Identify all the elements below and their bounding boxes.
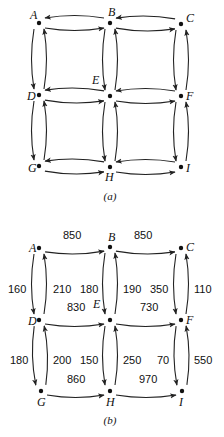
edge-a-to-d [32,254,35,314]
node-label: D [27,314,37,328]
node-e [108,318,112,322]
node-a [37,21,41,25]
node-label: B [108,230,116,244]
node-d [37,318,41,322]
node-label: F [185,313,194,327]
edge-g-to-h [45,171,104,174]
edge-e-to-f [116,101,175,104]
edge-d-to-a [44,29,47,89]
panel-caption: (a) [104,190,117,203]
edge-h-to-e [115,102,118,161]
edge-h-to-i [116,395,176,398]
node-label: A [28,241,37,255]
edge-b-to-e [103,253,106,314]
edge-weight-label: 850 [134,229,152,241]
node-label: G [28,161,37,175]
node-label: F [185,89,194,103]
edge-weight-label: 730 [140,301,158,313]
edge-weight-label: 250 [123,354,141,366]
edge-b-to-c [116,28,175,31]
edge-d-to-g [32,326,35,385]
node-label: I [178,395,184,409]
edge-b-to-a [45,16,104,19]
edge-weight-label: 70 [157,354,169,366]
edge-e-to-d [45,88,104,91]
node-b [108,21,112,25]
node-label: H [104,170,115,184]
node-label: G [37,395,46,409]
node-g [39,389,43,393]
edge-e-to-h [103,102,106,161]
node-c [179,22,183,26]
edge-g-to-d [44,326,47,385]
edge-i-to-f [186,102,189,161]
edge-i-to-h [116,160,175,163]
edge-weight-label: 180 [10,354,28,366]
node-c [179,246,183,250]
node-label: D [26,89,36,103]
panel-a: ABCDEFGHI(a) [26,5,195,203]
node-label: E [92,297,101,311]
edge-f-to-e [116,89,175,92]
edge-weight-label: 180 [80,283,98,295]
edge-e-to-b [115,253,118,314]
edge-b-to-e [103,29,106,90]
edge-f-to-i [174,326,177,385]
panel-caption: (b) [104,414,117,427]
node-h [108,165,112,169]
node-d [37,93,41,97]
edge-d-to-e [45,100,104,103]
edge-d-to-g [32,101,35,160]
edge-h-to-i [116,172,175,175]
node-label: C [186,240,195,254]
network-diagram: ABCDEFGHI(a) 850850830730860970160210180… [0,0,224,437]
node-label: E [91,73,100,87]
edge-f-to-c [186,30,189,90]
node-h [108,389,112,393]
edge-f-to-i [174,102,177,161]
node-i [179,165,183,169]
panel-b: 8508508307308609701602101801903501101802… [8,229,212,427]
node-label: C [186,11,195,25]
node-e [108,94,112,98]
edge-a-to-b [45,28,104,31]
node-g [37,164,41,168]
edge-a-to-b [45,251,104,254]
edge-e-to-b [115,29,118,90]
edge-f-to-c [186,254,189,314]
edge-weight-label: 190 [123,283,141,295]
node-f [179,318,183,322]
edge-h-to-e [115,326,118,385]
edge-weight-label: 850 [63,229,81,241]
edge-g-to-h [47,395,104,398]
edge-g-to-d [44,101,47,160]
edge-c-to-f [174,254,177,314]
edge-c-to-f [174,30,177,90]
edge-weight-label: 550 [194,354,212,366]
edge-weight-label: 150 [80,354,98,366]
node-b [108,245,112,249]
edge-weight-label: 160 [8,283,26,295]
edge-e-to-h [103,326,106,385]
node-a [37,246,41,250]
edge-weight-label: 830 [67,301,85,313]
edge-c-to-b [116,16,175,19]
edge-weight-label: 860 [67,373,85,385]
edge-weight-label: 350 [150,283,168,295]
node-f [179,94,183,98]
edge-e-to-f [116,324,175,327]
edge-d-to-e [45,324,104,327]
node-label: I [185,161,191,175]
edge-d-to-a [44,254,47,314]
edge-weight-label: 200 [53,354,71,366]
edge-h-to-g [45,159,104,162]
node-label: A [29,8,38,22]
edge-weight-label: 110 [194,283,212,295]
edge-b-to-c [116,251,175,254]
node-label: B [108,5,116,19]
node-label: H [105,395,116,409]
node-i [180,389,184,393]
edge-weight-label: 970 [139,373,157,385]
edge-weight-label: 210 [53,283,71,295]
edge-i-to-f [186,326,189,385]
